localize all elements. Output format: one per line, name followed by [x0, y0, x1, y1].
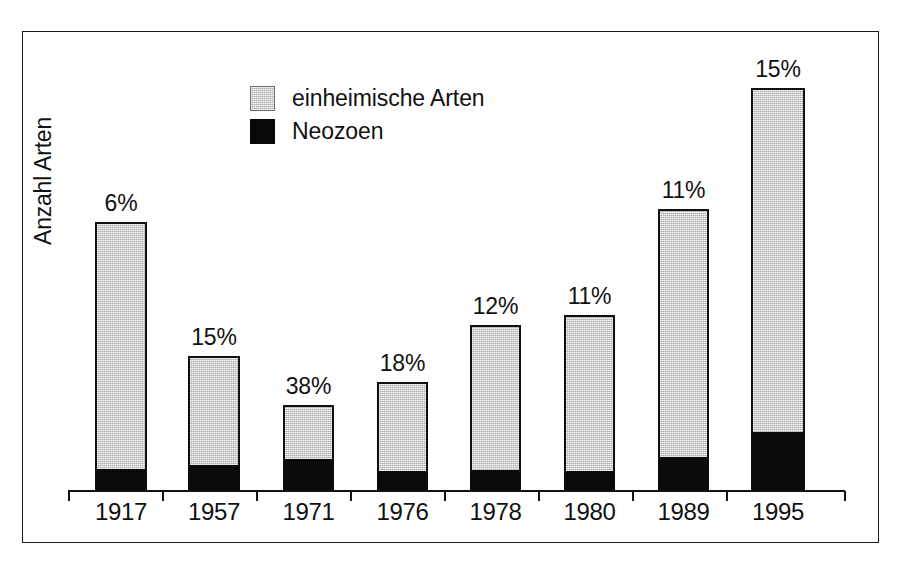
x-axis-label-1978: 1978 — [445, 498, 546, 526]
x-axis-tick-4 — [444, 491, 446, 501]
bar-segment-neozoen-1989 — [658, 457, 709, 491]
x-axis-tick-8 — [844, 491, 846, 501]
bar-1976 — [377, 382, 428, 491]
y-axis-label: Anzahl Arten — [30, 117, 57, 245]
bar-segment-neozoen-1995 — [751, 432, 805, 491]
bar-1957 — [188, 356, 240, 491]
bar-value-label-1976: 18% — [357, 350, 448, 377]
x-axis-label-1976: 1976 — [352, 498, 453, 526]
x-axis-label-1917: 1917 — [70, 498, 172, 526]
x-axis-label-1971: 1971 — [258, 498, 359, 526]
x-axis-tick-3 — [350, 491, 352, 501]
x-axis-tick-1 — [162, 491, 164, 501]
chart-legend: einheimische Arten Neozoen — [250, 82, 485, 148]
bar-value-label-1980: 11% — [544, 283, 635, 310]
x-axis-label-1989: 1989 — [633, 498, 734, 526]
x-axis-tick-5 — [538, 491, 540, 501]
x-axis-line — [68, 490, 845, 492]
bar-1980 — [564, 315, 615, 491]
bar-1989 — [658, 209, 709, 491]
x-axis-tick-0 — [68, 491, 70, 501]
bar-1971 — [283, 405, 334, 491]
bar-value-label-1989: 11% — [638, 177, 729, 204]
bar-segment-neozoen-1976 — [377, 471, 428, 491]
bar-segment-neozoen-1917 — [95, 469, 147, 491]
chart-figure: Anzahl Arten einheimische Arten Neozoen … — [0, 0, 897, 563]
bar-value-label-1995: 15% — [731, 56, 825, 83]
x-axis-tick-7 — [726, 491, 728, 501]
bar-value-label-1971: 38% — [263, 373, 354, 400]
legend-label-einheimische-arten: einheimische Arten — [292, 85, 485, 112]
x-axis-label-1957: 1957 — [163, 498, 265, 526]
x-axis-tick-6 — [632, 491, 634, 501]
bar-value-label-1978: 12% — [450, 293, 541, 320]
bar-segment-neozoen-1957 — [188, 465, 240, 491]
plot-area: Anzahl Arten einheimische Arten Neozoen … — [0, 0, 897, 563]
bar-1917 — [95, 222, 147, 491]
bar-segment-neozoen-1978 — [470, 470, 521, 491]
x-axis-label-1995: 1995 — [726, 498, 830, 526]
bar-value-label-1917: 6% — [75, 190, 167, 217]
bar-1995 — [751, 88, 805, 491]
legend-swatch-neozoen-icon — [250, 119, 275, 144]
legend-item-neozoen: Neozoen — [250, 115, 485, 148]
bar-value-label-1957: 15% — [168, 324, 260, 351]
legend-swatch-native-icon — [250, 86, 275, 111]
bar-1978 — [470, 325, 521, 491]
bar-segment-neozoen-1971 — [283, 459, 334, 491]
x-axis-label-1980: 1980 — [539, 498, 640, 526]
legend-item-einheimische-arten: einheimische Arten — [250, 82, 485, 115]
legend-label-neozoen: Neozoen — [292, 118, 383, 145]
bar-segment-neozoen-1980 — [564, 471, 615, 491]
x-axis-tick-2 — [256, 491, 258, 501]
